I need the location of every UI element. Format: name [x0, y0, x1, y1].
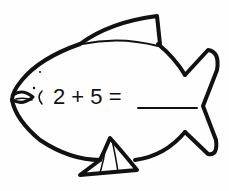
answer-blank[interactable] [138, 86, 197, 108]
fish-worksheet: 2 + 5 = [0, 0, 229, 191]
equation-text: 2 + 5 = [53, 86, 122, 108]
